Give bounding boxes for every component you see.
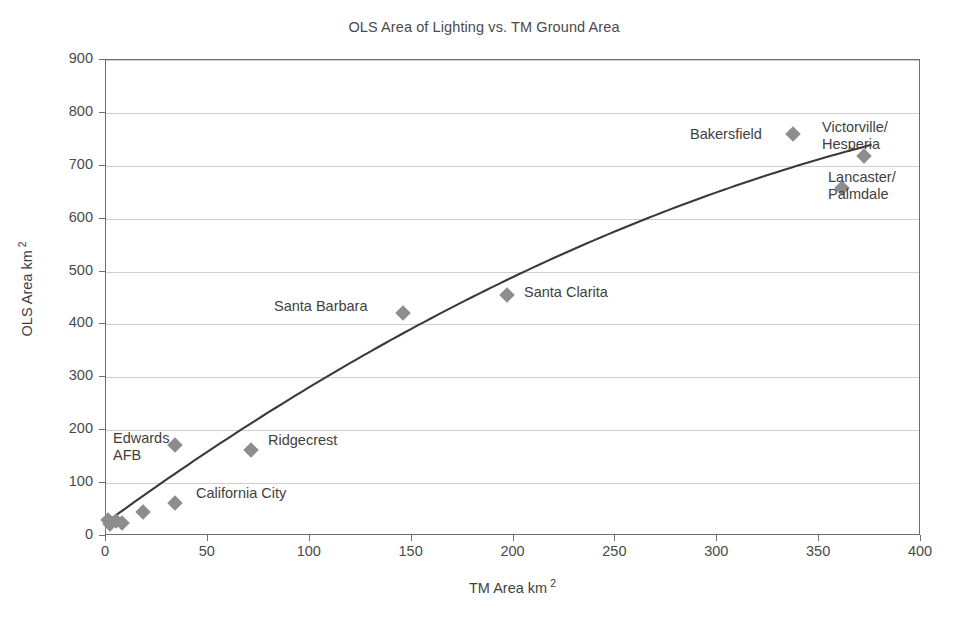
x-axis-tick-label: 100 bbox=[279, 544, 339, 559]
x-axis-tick-mark bbox=[207, 535, 208, 541]
x-axis-tick-label: 350 bbox=[788, 544, 848, 559]
point-label-santa-clarita: Santa Clarita bbox=[524, 284, 608, 301]
data-marker[interactable] bbox=[135, 504, 151, 520]
x-axis-tick-label: 200 bbox=[483, 544, 543, 559]
y-axis-title-exponent: 2 bbox=[17, 241, 28, 247]
x-axis-tick-mark bbox=[818, 535, 819, 541]
data-marker[interactable] bbox=[167, 495, 183, 511]
x-axis-tick-mark bbox=[411, 535, 412, 541]
x-axis-title: TM Area km2 bbox=[105, 578, 920, 596]
x-axis-tick-label: 50 bbox=[177, 544, 237, 559]
x-axis-tick-label: 300 bbox=[686, 544, 746, 559]
y-axis-tick-label: 300 bbox=[47, 368, 93, 383]
data-marker[interactable] bbox=[785, 126, 801, 142]
point-label-lancaster-palmdale: Lancaster/ Palmdale bbox=[828, 169, 896, 203]
y-axis-tick-label: 900 bbox=[47, 51, 93, 66]
x-axis-tick-mark bbox=[105, 535, 106, 541]
y-axis-tick-label: 200 bbox=[47, 421, 93, 436]
point-label-bakersfield: Bakersfield bbox=[690, 126, 762, 143]
data-marker[interactable] bbox=[167, 437, 183, 453]
x-axis-tick-mark bbox=[614, 535, 615, 541]
y-axis-title: OLS Area km2 bbox=[17, 179, 35, 399]
data-marker[interactable] bbox=[500, 287, 516, 303]
y-axis-tick-label: 800 bbox=[47, 104, 93, 119]
chart-container: OLS Area of Lighting vs. TM Ground Area … bbox=[0, 0, 968, 620]
y-axis-tick-label: 500 bbox=[47, 263, 93, 278]
x-axis-tick-label: 150 bbox=[381, 544, 441, 559]
point-label-victorville-hesperia: Victorville/ Hesperia bbox=[822, 119, 888, 153]
x-axis-tick-mark bbox=[513, 535, 514, 541]
x-axis-tick-label: 0 bbox=[75, 544, 135, 559]
point-label-ridgecrest: Ridgecrest bbox=[268, 432, 337, 449]
point-label-santa-barbara: Santa Barbara bbox=[274, 298, 368, 315]
x-axis-title-text: TM Area km bbox=[469, 580, 547, 596]
x-axis-tick-label: 250 bbox=[584, 544, 644, 559]
data-marker[interactable] bbox=[243, 442, 259, 458]
data-marker[interactable] bbox=[396, 305, 412, 321]
point-label-edwards-afb: Edwards AFB bbox=[113, 430, 169, 464]
y-axis-tick-label: 600 bbox=[47, 210, 93, 225]
x-axis-title-exponent: 2 bbox=[550, 578, 556, 589]
chart-title: OLS Area of Lighting vs. TM Ground Area bbox=[0, 19, 968, 35]
y-axis-tick-label: 0 bbox=[47, 527, 93, 542]
x-axis-tick-mark bbox=[309, 535, 310, 541]
y-axis-title-text: OLS Area km bbox=[19, 250, 35, 336]
y-axis-tick-label: 100 bbox=[47, 474, 93, 489]
x-axis-tick-mark bbox=[716, 535, 717, 541]
data-markers bbox=[106, 60, 919, 534]
x-axis-tick-mark bbox=[920, 535, 921, 541]
x-axis-tick-label: 400 bbox=[890, 544, 950, 559]
plot-area bbox=[105, 59, 920, 535]
point-label-california-city: California City bbox=[196, 485, 286, 502]
y-axis-tick-label: 400 bbox=[47, 315, 93, 330]
y-axis-tick-label: 700 bbox=[47, 157, 93, 172]
